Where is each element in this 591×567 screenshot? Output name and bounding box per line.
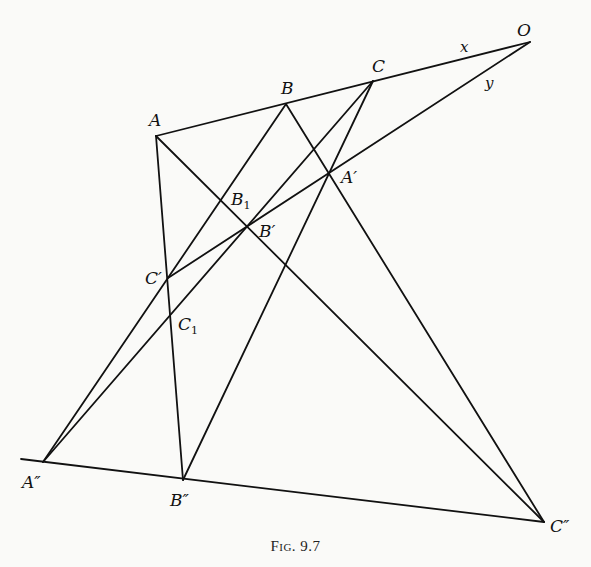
label-C-sub-1: C1 [178, 314, 198, 337]
line-C-Adouble [43, 81, 373, 462]
label-C-sub-1-sub: 1 [191, 324, 198, 337]
label-A-double-prime: A″ [20, 472, 41, 492]
line-Adouble-Cdouble [21, 459, 544, 522]
label-B-sub-1-main: B [230, 189, 244, 209]
label-B-sub-1-sub: 1 [244, 199, 251, 212]
label-line-y: y [484, 74, 494, 92]
line-B-Cdouble [286, 104, 544, 522]
line-A-Cdouble [156, 136, 544, 522]
line-y-O-Cprime [168, 42, 530, 278]
figure-caption: Fig. 9.7 [0, 538, 591, 555]
line-x-A-O [156, 42, 530, 136]
segments-group [21, 42, 544, 522]
label-B-prime: B′ [258, 221, 275, 241]
line-A-Bdouble [156, 136, 183, 480]
label-C-double-prime: C″ [550, 516, 570, 536]
label-A: A [147, 110, 161, 130]
label-C: C [372, 56, 385, 76]
line-B-Adouble [43, 104, 286, 462]
line-C-Bdouble [183, 81, 373, 480]
label-line-x: x [460, 38, 469, 56]
label-C-sub-1-main: C [178, 314, 191, 334]
label-B-double-prime: B″ [169, 490, 189, 510]
label-O: O [517, 20, 531, 40]
label-B-sub-1: B1 [230, 189, 251, 212]
label-A-prime: A′ [339, 167, 357, 187]
label-B: B [280, 78, 294, 98]
geometry-figure: O A B C A′ B′ C′ B1 C1 A″ B″ C″ x y [0, 0, 591, 567]
label-C-prime: C′ [145, 268, 162, 288]
